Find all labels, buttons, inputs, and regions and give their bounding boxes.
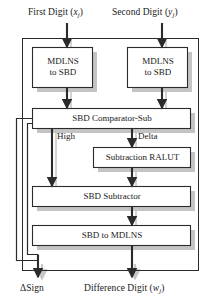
block-label-sbd-to-mdlns: SBD to MDLNS	[33, 230, 191, 241]
block-label-subtraction-ralut: Subtraction RALUT	[94, 152, 191, 163]
output-label-difference-digit: Difference Digit (wj)	[84, 284, 164, 295]
block-label-mdlns-to-sbd-right: MDLNS to SBD	[128, 56, 188, 78]
block-label-sbd-comparator-sub: SBD Comparator-Sub	[33, 113, 191, 124]
input-label-first-digit: First Digit (xj)	[28, 8, 83, 19]
block-label-mdlns-to-sbd-left: MDLNS to SBD	[33, 56, 93, 78]
mdlns-left-line2: to SBD	[33, 67, 93, 78]
block-diagram: First Digit (xj) Second Digit (yj) MDLNS…	[0, 0, 210, 303]
ghost-output-layer	[42, 264, 135, 279]
mdlns-left-line1: MDLNS	[33, 56, 93, 67]
output-label-delta-sign: ΔSign	[20, 284, 44, 294]
block-label-sbd-subtractor: SBD Subtractor	[33, 191, 191, 202]
signal-label-delta: Delta	[138, 132, 158, 141]
signal-label-high: High	[57, 132, 75, 141]
input-label-second-digit: Second Digit (yj)	[112, 8, 178, 19]
mdlns-right-line2: to SBD	[128, 67, 188, 78]
mdlns-right-line1: MDLNS	[128, 56, 188, 67]
